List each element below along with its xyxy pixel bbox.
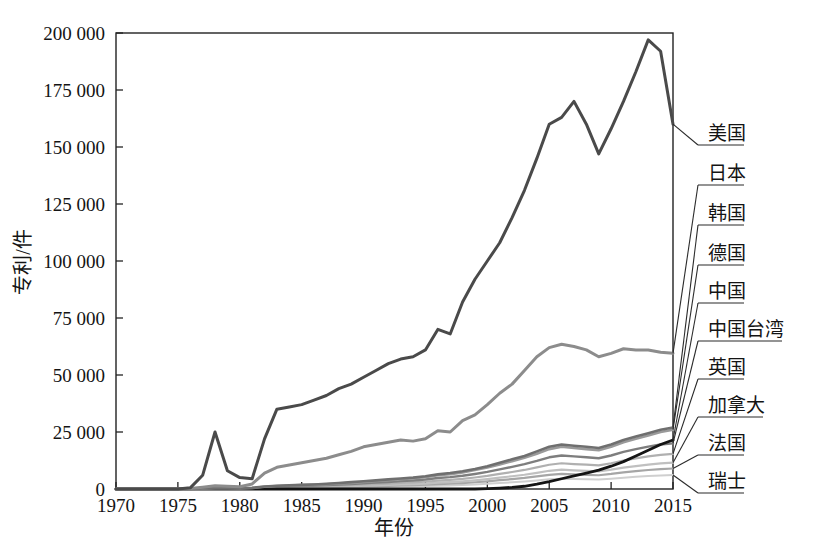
leader-line [673, 417, 698, 463]
series-label-8: 法国 [708, 433, 746, 454]
x-tick-label: 1980 [221, 495, 259, 516]
y-axis-title: 专利/件 [12, 229, 34, 295]
series-label-7: 加拿大 [708, 394, 765, 416]
series-label-9: 瑞士 [708, 471, 746, 492]
patent-trend-chart: 025 00050 00075 000100 000125 000150 000… [0, 0, 819, 543]
series-label-5: 中国台湾 [708, 319, 784, 340]
series-line [116, 40, 673, 489]
x-tick-label: 1985 [283, 495, 321, 516]
leader-line [673, 124, 698, 145]
x-tick-label: 2015 [654, 495, 692, 516]
y-tick-label: 200 000 [43, 23, 105, 44]
x-tick-label: 2000 [468, 495, 506, 516]
y-tick-label: 150 000 [43, 137, 105, 158]
leader-line [673, 455, 698, 469]
x-tick-label: 1995 [406, 495, 444, 516]
series-label-3: 德国 [708, 243, 746, 264]
series-label-1: 日本 [708, 163, 746, 184]
y-tick-label: 100 000 [43, 251, 105, 272]
x-tick-label: 1990 [345, 495, 383, 516]
y-tick-label: 125 000 [43, 194, 105, 215]
series-label-2: 韩国 [708, 203, 746, 224]
chart-canvas: 025 00050 00075 000100 000125 000150 000… [0, 0, 819, 543]
leader-line [673, 265, 698, 430]
leader-line [673, 475, 698, 493]
x-tick-label: 1975 [159, 495, 197, 516]
x-tick-label: 1970 [97, 495, 135, 516]
series-label-6: 英国 [708, 357, 746, 378]
x-tick-label: 2010 [592, 495, 630, 516]
series-label-0: 美国 [708, 123, 746, 144]
plot-area-border [116, 33, 673, 489]
plot-frame [116, 33, 673, 489]
series-labels: 美国日本韩国德国中国中国台湾英国加拿大法国瑞士 [708, 123, 784, 492]
series-line [116, 344, 673, 489]
y-tick-label: 50 000 [53, 365, 105, 386]
leader-line [673, 341, 698, 443]
y-tick-label: 75 000 [53, 308, 105, 329]
x-axis-title: 年份 [374, 517, 414, 539]
y-tick-label: 175 000 [43, 80, 105, 101]
x-tick-label: 2005 [530, 495, 568, 516]
y-tick-label: 25 000 [53, 422, 105, 443]
series-label-4: 中国 [708, 281, 746, 302]
data-series-lines [116, 40, 673, 489]
y-axis-ticks: 025 00050 00075 000100 000125 000150 000… [43, 23, 123, 500]
